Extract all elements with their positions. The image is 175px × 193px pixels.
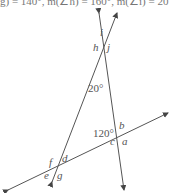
label-h: h (93, 42, 99, 53)
label-b: b (119, 120, 125, 131)
line-transversal (8, 113, 168, 190)
transversal-diagram (0, 0, 175, 193)
label-e: e (44, 170, 49, 181)
line-right (99, 13, 124, 190)
label-a: a (122, 136, 128, 147)
label-g: g (57, 170, 63, 181)
label-c: c (110, 136, 115, 147)
label-f: f (49, 157, 52, 168)
label-d: d (62, 153, 68, 164)
label-i: i (100, 27, 103, 38)
label-j: j (107, 42, 110, 53)
angle-20: 20° (88, 83, 103, 94)
